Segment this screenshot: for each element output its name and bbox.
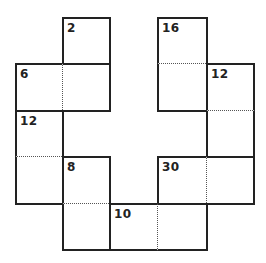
- grid-cell[interactable]: [207, 156, 255, 205]
- grid-cell[interactable]: [206, 111, 255, 158]
- grid-cell[interactable]: [63, 63, 111, 112]
- grid-cell[interactable]: [157, 64, 208, 112]
- grid-cell[interactable]: [158, 203, 208, 251]
- grid-cell[interactable]: [62, 204, 111, 251]
- cage-clue: 6: [20, 67, 29, 81]
- grid-cell[interactable]: [15, 157, 64, 205]
- puzzle-board: 2166121283010: [0, 0, 266, 263]
- cage-clue: 10: [114, 207, 132, 221]
- cage-clue: 16: [162, 21, 180, 35]
- cage-clue: 30: [162, 160, 180, 174]
- cage-clue: 8: [67, 160, 76, 174]
- cage-clue: 2: [67, 21, 76, 35]
- cage-clue: 12: [211, 67, 229, 81]
- cage-clue: 12: [20, 114, 38, 128]
